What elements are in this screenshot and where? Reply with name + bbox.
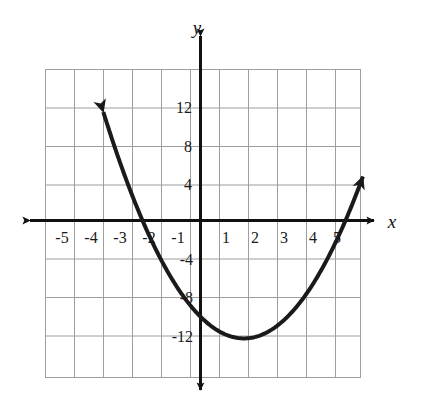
y-axis-label: y [191, 17, 202, 38]
y-tick-label: 12 [176, 99, 192, 116]
coordinate-plane-svg: x y -5 -4 -3 -2 -1 1 2 3 4 5 12 8 4 -4 -… [0, 0, 422, 401]
x-tick-label: 3 [280, 229, 288, 246]
x-tick-label: -1 [171, 229, 184, 246]
x-tick-label: 4 [309, 229, 317, 246]
x-tick-label: -4 [84, 229, 97, 246]
y-tick-label: -4 [180, 251, 193, 268]
x-tick-label: -5 [55, 229, 68, 246]
x-axis-label: x [387, 211, 397, 232]
x-tick-label: 1 [222, 229, 230, 246]
x-tick-label: 2 [251, 229, 259, 246]
x-tick-label: -3 [113, 229, 126, 246]
graph-figure: x y -5 -4 -3 -2 -1 1 2 3 4 5 12 8 4 -4 -… [0, 0, 422, 401]
y-tick-label: 8 [184, 138, 192, 155]
y-tick-label: -12 [172, 328, 193, 345]
y-tick-label: 4 [184, 176, 192, 193]
figure-background [0, 0, 422, 401]
